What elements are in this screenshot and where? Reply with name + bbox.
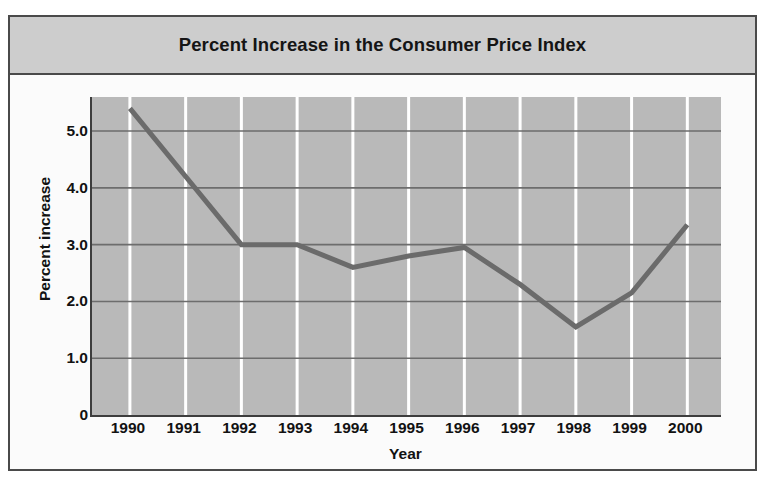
- x-axis-tick-label: 1999: [600, 419, 660, 437]
- y-axis-tick-label: 5.0: [36, 122, 88, 140]
- x-axis-tick-label: 1992: [209, 419, 269, 437]
- x-axis-tick-label: 1995: [377, 419, 437, 437]
- plot-svg: [92, 97, 721, 417]
- x-axis-title: Year: [90, 445, 721, 463]
- y-axis-tick-label: 4.0: [36, 179, 88, 197]
- x-axis-tick-labels: 1990199119921993199419951996199719981999…: [90, 419, 721, 445]
- y-axis-tick-label: 2.0: [36, 292, 88, 310]
- x-axis-tick-label: 1998: [544, 419, 604, 437]
- chart-body: Percent increase 01.02.03.04.05.0 199019…: [10, 75, 755, 469]
- x-axis-tick-label: 1991: [154, 419, 214, 437]
- x-axis-tick-label: 1993: [265, 419, 325, 437]
- chart-figure: Percent Increase in the Consumer Price I…: [8, 15, 757, 471]
- chart-title-band: Percent Increase in the Consumer Price I…: [10, 17, 755, 75]
- y-axis-tick-label: 1.0: [36, 349, 88, 367]
- x-axis-tick-label: 1994: [321, 419, 381, 437]
- y-axis-tick-labels: 01.02.03.04.05.0: [32, 75, 88, 469]
- plot-area: [90, 97, 721, 417]
- y-axis-tick-label: 3.0: [36, 236, 88, 254]
- y-axis-tick-label: 0: [36, 406, 88, 424]
- x-axis-tick-label: 1997: [488, 419, 548, 437]
- page-title: Percent Increase in the Consumer Price I…: [179, 34, 586, 56]
- x-axis-tick-label: 1996: [432, 419, 492, 437]
- x-axis-tick-label: 2000: [655, 419, 715, 437]
- x-axis-tick-label: 1990: [98, 419, 158, 437]
